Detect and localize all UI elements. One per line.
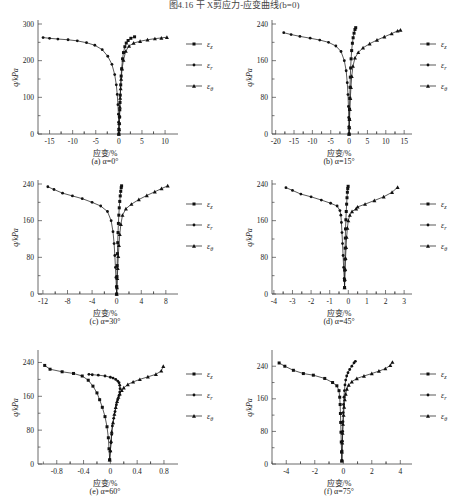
data-point-marker bbox=[159, 369, 163, 373]
legend-label-θ: εθ bbox=[207, 412, 213, 422]
data-point-marker bbox=[340, 221, 343, 224]
data-point-marker bbox=[347, 93, 350, 96]
y-tick-label: 0 bbox=[30, 290, 34, 299]
data-point-marker bbox=[106, 425, 109, 428]
legend-label-r: εr bbox=[441, 391, 447, 401]
data-point-marker bbox=[116, 93, 119, 96]
x-tick-label: 5 bbox=[366, 137, 370, 146]
data-point-marker bbox=[343, 59, 346, 62]
legend-label-z: εz bbox=[207, 200, 213, 210]
data-point-marker bbox=[111, 63, 114, 66]
subplot-a: 0100200300-15-10-50510εzεrεθq/kPa应变/%(a)… bbox=[0, 10, 234, 170]
data-point-marker bbox=[335, 384, 338, 387]
legend-marker-r bbox=[427, 64, 430, 67]
data-point-marker bbox=[71, 195, 74, 198]
x-tick-label: -2 bbox=[312, 467, 318, 476]
data-point-marker bbox=[347, 105, 350, 108]
series-curve bbox=[48, 187, 117, 294]
data-point-marker bbox=[334, 45, 337, 48]
series-curve bbox=[342, 362, 393, 461]
data-point-marker bbox=[110, 219, 113, 222]
data-point-marker bbox=[361, 46, 365, 50]
data-point-marker bbox=[398, 28, 402, 32]
data-point-marker bbox=[43, 364, 46, 367]
y-tick-label: 240 bbox=[23, 358, 35, 367]
data-point-marker bbox=[166, 184, 170, 188]
x-tick-label: -3 bbox=[289, 297, 295, 306]
data-point-marker bbox=[341, 231, 344, 234]
data-point-marker bbox=[110, 430, 114, 434]
data-point-marker bbox=[338, 396, 341, 399]
legend-label-θ: εθ bbox=[207, 82, 213, 92]
data-point-marker bbox=[137, 198, 141, 202]
data-point-marker bbox=[377, 369, 381, 373]
data-point-marker bbox=[131, 380, 135, 384]
x-tick-label: -15 bbox=[45, 137, 55, 146]
data-point-marker bbox=[114, 378, 117, 381]
x-tick-label: 4 bbox=[398, 467, 402, 476]
data-point-marker bbox=[396, 185, 400, 189]
data-point-marker bbox=[345, 387, 349, 391]
data-point-marker bbox=[278, 361, 281, 364]
y-tick-label: 240 bbox=[257, 180, 269, 189]
data-point-marker bbox=[117, 214, 120, 217]
legend-label-θ: εθ bbox=[441, 82, 447, 92]
subplot-caption-c: (c) α=30° bbox=[0, 317, 222, 326]
data-point-marker bbox=[344, 379, 347, 382]
data-point-marker bbox=[112, 377, 115, 380]
data-point-marker bbox=[121, 213, 125, 217]
data-point-marker bbox=[101, 48, 104, 51]
data-point-marker bbox=[299, 193, 302, 196]
y-tick-label: 160 bbox=[257, 394, 269, 403]
y-axis-label: q/kPa bbox=[11, 215, 20, 261]
legend-label-θ: εθ bbox=[441, 242, 447, 252]
data-point-marker bbox=[118, 200, 121, 203]
data-point-marker bbox=[119, 194, 122, 197]
data-point-marker bbox=[48, 37, 51, 40]
data-point-marker bbox=[348, 368, 351, 371]
x-tick-label: 5 bbox=[140, 137, 144, 146]
data-point-marker bbox=[383, 367, 387, 371]
data-point-marker bbox=[382, 195, 386, 199]
y-axis-label: q/kPa bbox=[245, 385, 254, 431]
data-point-marker bbox=[115, 83, 118, 86]
data-point-marker bbox=[81, 375, 84, 378]
x-tick-label: 2 bbox=[384, 297, 388, 306]
data-point-marker bbox=[101, 406, 104, 409]
y-tick-label: 80 bbox=[27, 426, 35, 435]
x-tick-label: 0 bbox=[347, 137, 351, 146]
data-point-marker bbox=[342, 413, 346, 417]
x-tick-label: 2 bbox=[370, 467, 374, 476]
data-point-marker bbox=[336, 205, 339, 208]
y-tick-label: 0 bbox=[30, 460, 34, 469]
y-tick-label: 0 bbox=[264, 460, 268, 469]
legend-label-r: εr bbox=[441, 221, 447, 231]
figure-title: 图4.16 干 X剪应力-应变曲线(b=0) bbox=[0, 0, 468, 9]
y-tick-label: 80 bbox=[261, 427, 269, 436]
data-point-marker bbox=[351, 42, 354, 45]
subplot-caption-b: (b) α=15° bbox=[222, 157, 456, 166]
data-point-marker bbox=[329, 202, 332, 205]
y-tick-label: 100 bbox=[23, 93, 35, 102]
data-point-marker bbox=[91, 385, 94, 388]
y-axis-label: q/kPa bbox=[245, 215, 254, 261]
data-point-marker bbox=[72, 372, 75, 375]
y-tick-label: 240 bbox=[257, 20, 269, 29]
y-tick-label: 240 bbox=[23, 180, 35, 189]
data-point-marker bbox=[375, 38, 379, 42]
x-tick-label: 15 bbox=[400, 137, 408, 146]
x-tick-label: -2 bbox=[308, 297, 314, 306]
data-point-marker bbox=[85, 41, 88, 44]
legend-marker-z bbox=[427, 373, 430, 376]
x-tick-label: 8 bbox=[164, 297, 168, 306]
legend-label-r: εr bbox=[441, 61, 447, 71]
data-point-marker bbox=[145, 193, 149, 197]
data-point-marker bbox=[49, 368, 52, 371]
data-point-marker bbox=[347, 185, 350, 188]
series-curve bbox=[45, 365, 110, 459]
data-point-marker bbox=[118, 206, 121, 209]
x-tick-label: -15 bbox=[289, 137, 299, 146]
data-point-marker bbox=[129, 202, 133, 206]
data-point-marker bbox=[350, 365, 353, 368]
data-point-marker bbox=[67, 38, 70, 41]
